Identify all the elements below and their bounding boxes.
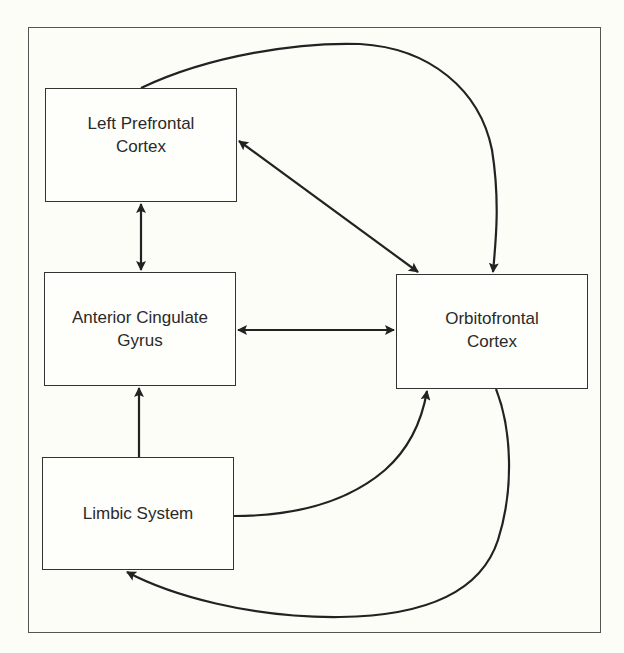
node-label-line1: Anterior Cingulate (72, 306, 208, 329)
node-label-line1: Limbic System (83, 502, 194, 525)
node-left-prefrontal-cortex: Left Prefrontal Cortex (45, 88, 237, 202)
node-limbic-system: Limbic System (42, 457, 234, 570)
edge-limbic-ofc-curve (234, 391, 427, 516)
node-anterior-cingulate-gyrus: Anterior Cingulate Gyrus (44, 272, 236, 386)
node-label-line1: Orbitofrontal (445, 307, 539, 330)
node-label-line2: Gyrus (72, 329, 208, 352)
node-label-line1: Left Prefrontal (88, 112, 195, 135)
edge-lpfc-ofc-diagonal (239, 141, 418, 272)
node-label-line2: Cortex (88, 135, 195, 158)
node-label-line2: Cortex (445, 330, 539, 353)
node-orbitofrontal-cortex: Orbitofrontal Cortex (396, 274, 588, 389)
